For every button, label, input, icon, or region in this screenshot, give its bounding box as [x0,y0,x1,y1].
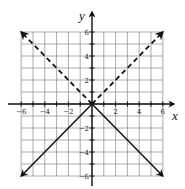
y-tick-label: −2 [79,125,89,133]
x-tick-label: −2 [63,108,73,116]
coordinate-plane-chart: −6−4−2246642−2−4−6 x y [0,0,185,189]
y-tick-label: −6 [79,173,90,181]
x-tick-label: −4 [40,108,51,116]
y-tick-label: −4 [79,149,90,157]
x-tick-label: −6 [16,108,27,116]
x-axis-label: x [171,108,178,123]
x-tick-label: 2 [113,108,117,116]
x-tick-label: 4 [137,108,142,116]
y-tick-label: 2 [85,77,89,85]
y-tick-label: 4 [85,53,90,61]
y-tick-label: 6 [85,29,90,37]
y-axis-label: y [77,8,85,23]
x-tick-label: 6 [161,108,166,116]
